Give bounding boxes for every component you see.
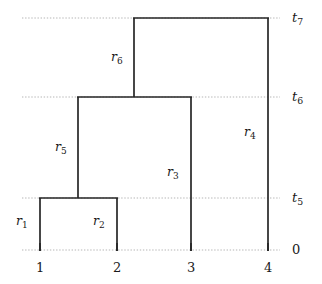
- gridlines: [22, 18, 280, 250]
- x-tick-label-1-text: 1: [36, 260, 44, 275]
- x-tick-label-2: 2: [113, 261, 121, 274]
- branch-label-r1-sub: 1: [22, 220, 28, 230]
- coalescent-tree-figure: r1 r2 r3 r4 r5 r6 t7 t6 t5 0 1 2 3 4: [0, 0, 322, 284]
- branch-label-r4-sub: 4: [250, 131, 256, 141]
- x-tick-label-4-text: 4: [264, 260, 272, 275]
- branch-label-r1: r1: [16, 215, 28, 230]
- branch-label-r2: r2: [93, 215, 105, 230]
- x-tick-label-3-text: 3: [187, 260, 195, 275]
- tree-branches: [39, 18, 269, 251]
- x-tick-label-1: 1: [36, 261, 44, 274]
- x-tick-label-2-text: 2: [113, 260, 121, 275]
- branch-label-r5: r5: [55, 141, 67, 156]
- time-axis-label-zero-text: 0: [292, 242, 300, 257]
- time-axis-label-zero: 0: [292, 243, 300, 256]
- branch-label-r6-sub: 6: [117, 56, 123, 66]
- branch-label-r2-sub: 2: [99, 220, 105, 230]
- branch-label-r3: r3: [167, 166, 179, 181]
- x-tick-label-4: 4: [264, 261, 272, 274]
- tree-svg: [0, 0, 322, 284]
- branch-label-r5-sub: 5: [61, 146, 67, 156]
- branch-label-r4: r4: [244, 126, 256, 141]
- branch-label-r6: r6: [111, 51, 123, 66]
- time-axis-label-t5-sub: 5: [297, 196, 303, 207]
- time-axis-label-t6: t6: [292, 90, 303, 105]
- time-axis-label-t7: t7: [292, 11, 303, 26]
- branch-label-r3-sub: 3: [173, 171, 179, 181]
- time-axis-label-t7-sub: 7: [297, 16, 303, 27]
- time-axis-label-t6-sub: 6: [297, 95, 303, 106]
- time-axis-label-t5: t5: [292, 191, 303, 206]
- x-tick-label-3: 3: [187, 261, 195, 274]
